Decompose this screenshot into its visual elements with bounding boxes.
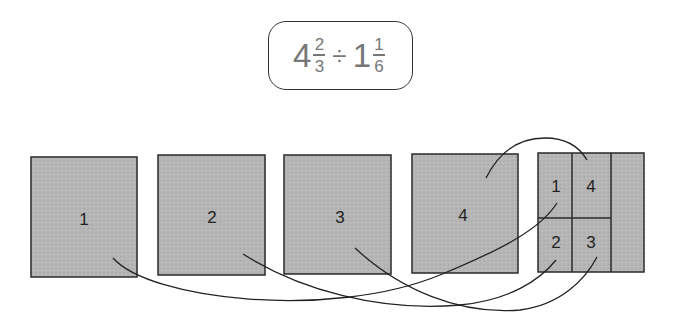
cell-label-1: 1 [551,177,560,196]
divisor-box-rect [538,153,644,272]
whole-box-4: 4 [412,154,518,273]
whole-box-1-label: 1 [79,210,88,229]
cell-label-3: 3 [586,233,595,252]
model-diagram: 1 2 3 4 1 4 2 3 [0,0,677,323]
whole-box-3: 3 [284,155,391,274]
whole-box-4-label: 4 [458,206,467,225]
cell-label-4: 4 [586,177,595,196]
divisor-box: 1 4 2 3 [538,153,644,272]
whole-box-3-label: 3 [335,208,344,227]
whole-box-2-label: 2 [207,208,216,227]
cell-label-2: 2 [551,233,560,252]
whole-box-1: 1 [31,157,137,277]
